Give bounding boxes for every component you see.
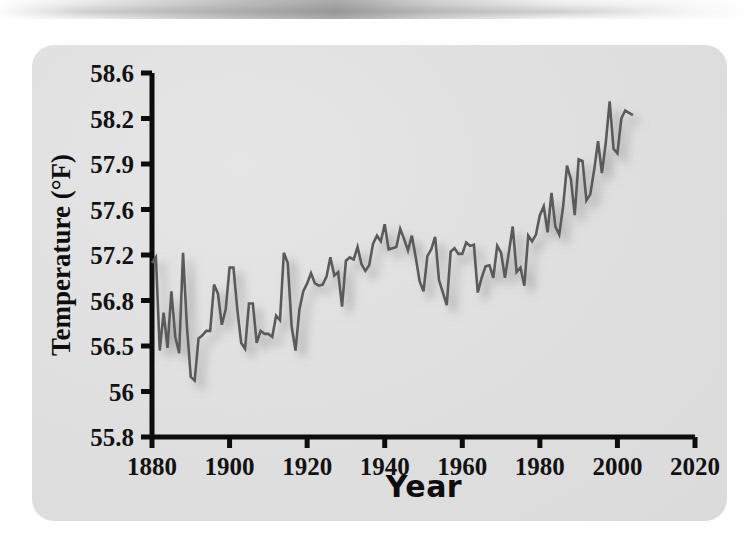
x-axis-tick-label: 1980 [515, 453, 565, 480]
line-chart-svg: 55.85656.556.857.257.657.958.258.6 18801… [32, 45, 727, 521]
x-axis-tick-label: 2020 [670, 453, 720, 480]
scan-artifact-band [0, 0, 749, 19]
y-axis-tick-labels: 55.85656.556.857.257.657.958.258.6 [90, 60, 134, 451]
temperature-data-line [152, 101, 633, 380]
x-axis-tick-label: 1920 [282, 453, 332, 480]
y-axis-tick-label: 57.2 [90, 242, 134, 269]
x-axis-tick-label: 2000 [592, 453, 642, 480]
y-axis-tick-label: 55.8 [90, 424, 134, 451]
x-axis-tick-label: 1900 [205, 453, 255, 480]
y-axis-tick-label: 58.6 [90, 60, 134, 87]
y-axis-tick-label: 56.5 [90, 333, 134, 360]
y-axis-tick-label: 57.6 [90, 197, 134, 224]
x-axis-title: Year [385, 469, 462, 504]
y-axis-tick-label: 56 [109, 379, 134, 406]
y-axis-tick-label: 57.9 [90, 151, 134, 178]
y-axis-tick-label: 56.8 [90, 288, 134, 315]
chart-figure-panel: 55.85656.556.857.257.657.958.258.6 18801… [32, 45, 727, 521]
chart-axes [152, 73, 695, 437]
x-axis-tick-label: 1880 [127, 453, 177, 480]
y-axis-tick-label: 58.2 [90, 106, 134, 133]
screenshot-root: 55.85656.556.857.257.657.958.258.6 18801… [0, 0, 749, 557]
y-axis-title: Temperature (°F) [46, 154, 76, 356]
